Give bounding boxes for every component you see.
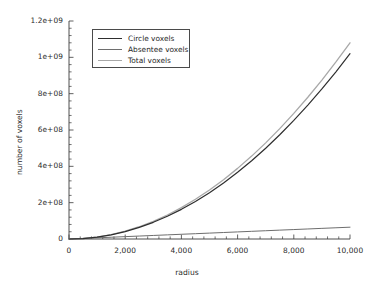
legend-swatch-total-voxels [98, 60, 122, 61]
x-tick-label: 6,000 [213, 246, 263, 255]
y-tick-label: 8e+08 [38, 89, 63, 98]
legend-swatch-absentee-voxels [98, 49, 122, 50]
x-tick-label: 8,000 [269, 246, 319, 255]
x-tick-label: 2,000 [100, 246, 150, 255]
x-axis-title: radius [0, 268, 374, 277]
y-tick-label: 1.2e+09 [30, 16, 63, 25]
legend-entry-absentee-voxels: Absentee voxels [93, 44, 189, 55]
legend-label-absentee-voxels: Absentee voxels [128, 44, 188, 55]
y-axis-title: number of voxels [15, 109, 24, 175]
legend-entry-circle-voxels: Circle voxels [93, 33, 189, 44]
x-tick-label: 0 [44, 246, 94, 255]
chart-legend: Circle voxels Absentee voxels Total voxe… [92, 29, 190, 68]
y-tick-label: 2e+08 [38, 198, 63, 207]
y-tick-label: 4e+08 [38, 161, 63, 170]
legend-label-circle-voxels: Circle voxels [128, 33, 174, 44]
chart-container: Circle voxels Absentee voxels Total voxe… [0, 0, 374, 283]
y-tick-label: 6e+08 [38, 125, 63, 134]
legend-label-total-voxels: Total voxels [128, 55, 171, 66]
legend-entry-total-voxels: Total voxels [93, 55, 189, 66]
y-tick-label: 0 [58, 234, 63, 243]
legend-swatch-circle-voxels [98, 38, 122, 39]
x-tick-label: 10,000 [325, 246, 374, 255]
y-tick-label: 1e+09 [38, 52, 63, 61]
x-tick-label: 4,000 [156, 246, 206, 255]
